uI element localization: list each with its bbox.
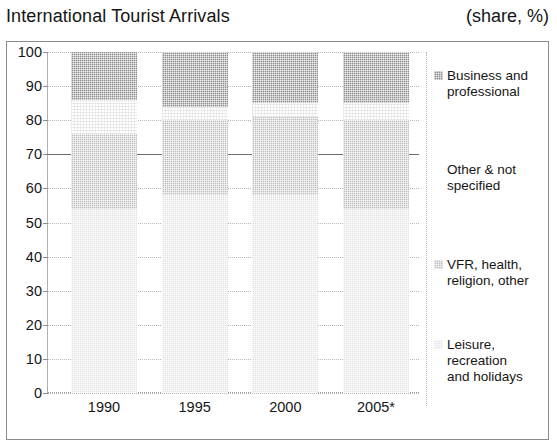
chart-frame: 0102030405060708090100 1990199520002005*… bbox=[6, 41, 549, 440]
bar-segment bbox=[252, 52, 318, 103]
bar-segment bbox=[71, 100, 137, 134]
y-axis-label: 50 bbox=[8, 215, 42, 231]
y-axis-tick bbox=[43, 52, 48, 53]
bar-1995 bbox=[162, 52, 228, 406]
y-axis-label: 30 bbox=[8, 283, 42, 299]
legend-swatch-icon bbox=[434, 260, 443, 269]
y-axis-tick bbox=[43, 393, 48, 394]
x-axis-label: 2005* bbox=[343, 399, 409, 415]
legend-label: Other & notspecified bbox=[447, 162, 516, 194]
bar-2000 bbox=[252, 52, 318, 406]
bar-segment bbox=[343, 209, 409, 393]
bar-2005star bbox=[343, 52, 409, 406]
bar-segment bbox=[162, 52, 228, 107]
legend-swatch-icon bbox=[434, 71, 443, 80]
bar-segment bbox=[71, 209, 137, 393]
legend-item[interactable]: Leisure, recreationand holidays bbox=[434, 337, 546, 385]
y-axis-tick bbox=[43, 86, 48, 87]
y-axis-label: 20 bbox=[8, 317, 42, 333]
chart-legend: Business andprofessionalOther & notspeci… bbox=[426, 52, 544, 406]
legend-label: Business andprofessional bbox=[447, 68, 528, 100]
y-axis-label: 100 bbox=[8, 44, 42, 60]
bar-segment bbox=[71, 52, 137, 100]
units-label: (share, %) bbox=[466, 6, 549, 27]
legend-label: VFR, health,religion, other bbox=[447, 257, 529, 289]
y-axis-tick bbox=[43, 325, 48, 326]
y-axis-tick bbox=[43, 291, 48, 292]
legend-item[interactable]: Other & notspecified bbox=[434, 162, 546, 194]
bar-segment bbox=[252, 103, 318, 117]
y-axis-label: 40 bbox=[8, 249, 42, 265]
y-axis-tick bbox=[43, 257, 48, 258]
legend-swatch-icon bbox=[434, 340, 443, 349]
page-title: International Tourist Arrivals bbox=[6, 6, 230, 27]
bar-segment bbox=[162, 107, 228, 121]
y-axis-label: 70 bbox=[8, 146, 42, 162]
y-axis-tick bbox=[43, 188, 48, 189]
y-axis-label: 0 bbox=[8, 385, 42, 401]
bar-segment bbox=[252, 117, 318, 195]
y-axis-label: 80 bbox=[8, 112, 42, 128]
x-axis-label: 1990 bbox=[71, 399, 137, 415]
bar-segment bbox=[343, 120, 409, 209]
chart-header: International Tourist Arrivals (share, %… bbox=[0, 0, 557, 38]
bar-segment bbox=[343, 52, 409, 103]
y-axis-tick bbox=[43, 120, 48, 121]
x-axis-label: 1995 bbox=[162, 399, 228, 415]
bar-segment bbox=[71, 134, 137, 209]
y-axis-tick bbox=[43, 223, 48, 224]
legend-label: Leisure, recreationand holidays bbox=[447, 337, 546, 385]
bar-segment bbox=[252, 195, 318, 393]
y-axis-tick bbox=[43, 359, 48, 360]
legend-swatch-icon bbox=[434, 165, 443, 174]
bar-segment bbox=[162, 195, 228, 393]
y-axis-label: 60 bbox=[8, 180, 42, 196]
bar-1990 bbox=[71, 52, 137, 406]
x-axis-label: 2000 bbox=[252, 399, 318, 415]
bar-segment bbox=[343, 103, 409, 120]
y-axis-label: 90 bbox=[8, 78, 42, 94]
legend-item[interactable]: VFR, health,religion, other bbox=[434, 257, 546, 289]
plot-area: 0102030405060708090100 1990199520002005* bbox=[47, 52, 419, 406]
legend-item[interactable]: Business andprofessional bbox=[434, 68, 546, 100]
y-axis-label: 10 bbox=[8, 351, 42, 367]
bar-segment bbox=[162, 120, 228, 195]
